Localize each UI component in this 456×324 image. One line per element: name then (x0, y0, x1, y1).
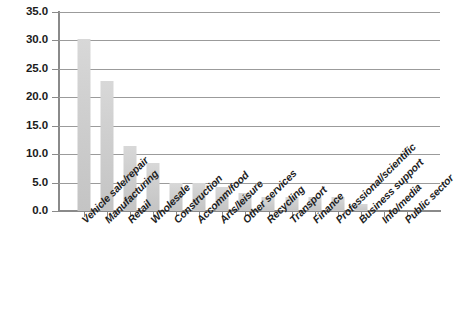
y-axis-tick-label: 25.0 (0, 63, 48, 74)
x-axis-tick-mark (107, 212, 108, 217)
bar (124, 146, 137, 211)
x-axis-tick-mark (153, 212, 154, 217)
y-axis-tick-label: 30.0 (0, 34, 48, 45)
bar (331, 197, 344, 211)
bar (354, 204, 367, 211)
bar (147, 163, 160, 211)
y-axis-tick-label-wrap: 35.0 (0, 12, 50, 13)
bar (77, 39, 90, 211)
bar (239, 193, 252, 211)
x-axis-tick-mark (361, 212, 362, 217)
bar-slot (372, 12, 395, 211)
bar-slot (349, 12, 372, 211)
x-axis-tick-mark (407, 212, 408, 217)
bar-slot (95, 12, 118, 211)
y-axis-tick-label: 20.0 (0, 91, 48, 102)
x-axis-tick-mark (315, 212, 316, 217)
bar-slot (211, 12, 234, 211)
y-axis-tick-label: 5.0 (0, 177, 48, 188)
bar-slot (188, 12, 211, 211)
y-axis-tick-label: 10.0 (0, 148, 48, 159)
bar-slot (165, 12, 188, 211)
y-axis-tick-label-wrap: 0.0 (0, 211, 50, 212)
bar (262, 197, 275, 211)
bar (193, 183, 206, 211)
bar (308, 197, 321, 211)
x-axis-tick-mark (84, 212, 85, 217)
y-axis-tick-label-wrap: 25.0 (0, 69, 50, 70)
bar-slot (395, 12, 418, 211)
bar-slot (118, 12, 141, 211)
bar (170, 183, 183, 211)
y-axis-tick-label-wrap: 15.0 (0, 126, 50, 127)
y-axis-tick-label: 15.0 (0, 120, 48, 131)
x-axis-tick-mark (338, 212, 339, 217)
bar-slot (257, 12, 280, 211)
bar (100, 81, 113, 211)
bar-slot (326, 12, 349, 211)
bar-slot (303, 12, 326, 211)
x-axis-tick-mark (199, 212, 200, 217)
y-axis-tick-label-wrap: 20.0 (0, 97, 50, 98)
bar (285, 197, 298, 211)
bar-slot (72, 12, 95, 211)
bar (216, 187, 229, 211)
bar-slot (280, 12, 303, 211)
bar-slot (142, 12, 165, 211)
x-axis-tick-mark (176, 212, 177, 217)
x-axis-tick-mark (384, 212, 385, 217)
x-axis-tick-mark (130, 212, 131, 217)
x-axis-tick-mark (269, 212, 270, 217)
bar-slot (234, 12, 257, 211)
y-axis-tick-label: 0.0 (0, 205, 48, 216)
x-axis-tick-mark (222, 212, 223, 217)
y-axis-tick-label: 35.0 (0, 6, 48, 17)
x-axis-tick-mark (292, 212, 293, 217)
y-axis-tick-label-wrap: 5.0 (0, 183, 50, 184)
x-axis-tick-mark (245, 212, 246, 217)
bars-group (58, 12, 440, 211)
y-axis-tick-label-wrap: 10.0 (0, 154, 50, 155)
y-axis-tick-label-wrap: 30.0 (0, 40, 50, 41)
y-axis-tick-mark (52, 211, 59, 212)
